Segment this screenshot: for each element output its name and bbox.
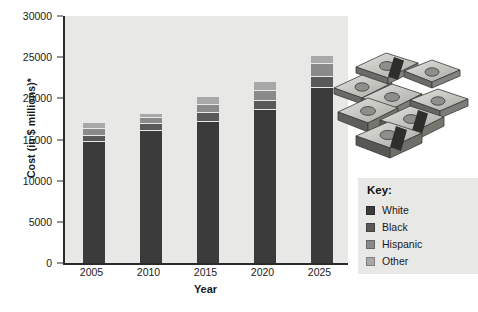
legend-swatch-other xyxy=(366,257,375,266)
y-tick-label: 0 xyxy=(46,257,52,269)
y-tick-label: 15000 xyxy=(23,134,52,146)
legend-key: Key: WhiteBlackHispanicOther xyxy=(358,178,478,274)
bar-segment-other xyxy=(254,82,276,90)
plot-area xyxy=(63,16,348,263)
stacked-cash-bundles-photo xyxy=(318,44,474,166)
legend-swatch-hispanic xyxy=(366,240,375,249)
legend-item-white: White xyxy=(366,203,470,217)
bar-2005 xyxy=(83,123,105,263)
bar-segment-other xyxy=(197,97,219,104)
x-tick-label-2015: 2015 xyxy=(194,266,217,278)
bar-2020 xyxy=(254,82,276,263)
legend-label: White xyxy=(382,204,409,216)
y-axis-ticks: 050001000015000200002500030000 xyxy=(0,0,57,312)
y-tick-label: 20000 xyxy=(23,92,52,104)
legend-item-black: Black xyxy=(366,220,470,234)
bar-segment-hispanic xyxy=(197,104,219,112)
x-axis-label: Year xyxy=(63,283,348,295)
x-tick-label-2010: 2010 xyxy=(137,266,160,278)
legend-item-hispanic: Hispanic xyxy=(366,237,470,251)
x-tick-label-2025: 2025 xyxy=(308,266,331,278)
bar-segment-black xyxy=(83,135,105,142)
legend-items: WhiteBlackHispanicOther xyxy=(366,203,470,268)
bar-segment-hispanic xyxy=(254,90,276,99)
bar-segment-black xyxy=(140,123,162,130)
bar-segment-black xyxy=(254,100,276,109)
chart-figure: Cost (in $ millions)* 050001000015000200… xyxy=(0,0,478,312)
legend-swatch-white xyxy=(366,206,375,215)
legend-title: Key: xyxy=(367,184,470,196)
y-tick-label: 25000 xyxy=(23,51,52,63)
x-tick-label-2020: 2020 xyxy=(251,266,274,278)
legend-label: Hispanic xyxy=(382,238,422,250)
y-tick-label: 10000 xyxy=(23,175,52,187)
legend-label: Black xyxy=(382,221,408,233)
bar-segment-white xyxy=(254,109,276,263)
legend-item-other: Other xyxy=(366,254,470,268)
x-tick-label-2005: 2005 xyxy=(80,266,103,278)
bar-2015 xyxy=(197,97,219,263)
bar-2010 xyxy=(140,114,162,263)
bar-segment-white xyxy=(83,141,105,263)
y-tick-label: 5000 xyxy=(29,216,52,228)
legend-swatch-black xyxy=(366,223,375,232)
legend-label: Other xyxy=(382,255,408,267)
bar-segment-black xyxy=(197,112,219,120)
y-tick-label: 30000 xyxy=(23,10,52,22)
bar-segment-white xyxy=(197,121,219,263)
bar-segment-white xyxy=(140,130,162,263)
